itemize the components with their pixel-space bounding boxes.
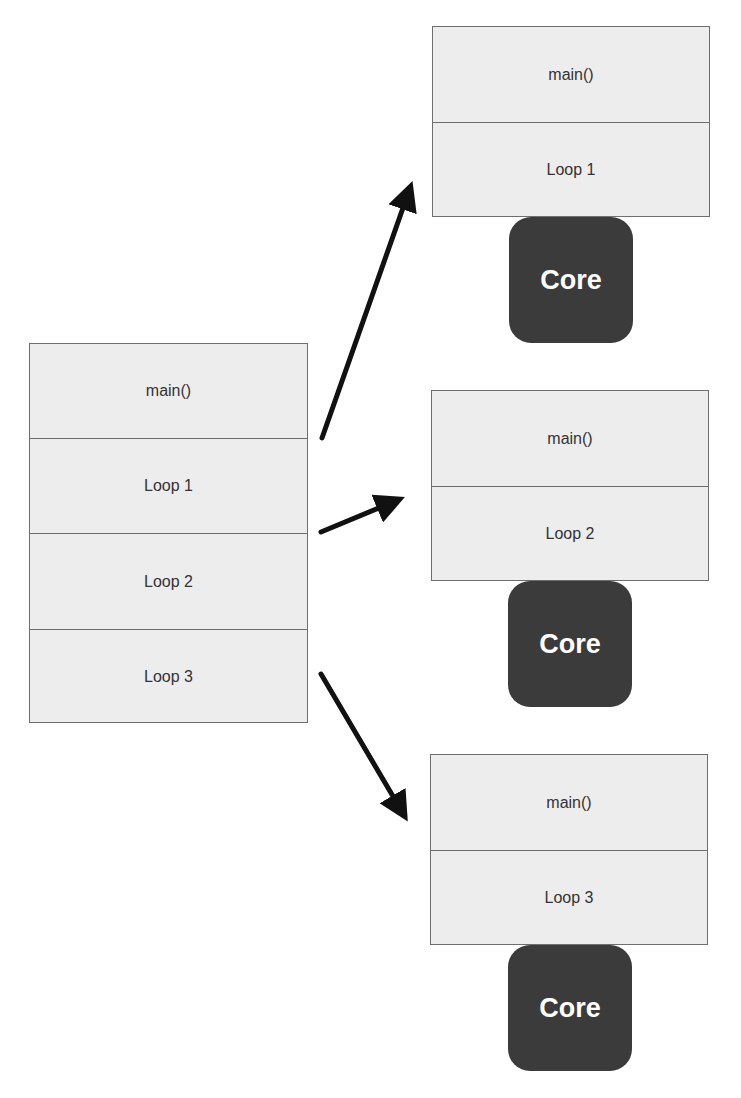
arrow-to-unit-1	[322, 188, 410, 438]
unit-3-stack: main() Loop 3	[430, 754, 708, 945]
unit-2-core: Core	[508, 581, 632, 707]
unit-2-section-loop: Loop 2	[432, 486, 708, 581]
unit-2-section-main: main()	[432, 391, 708, 486]
unit-1-core: Core	[509, 217, 633, 343]
unit-3-section-loop: Loop 3	[431, 850, 707, 945]
arrow-to-unit-3	[321, 674, 404, 815]
unit-1-stack: main() Loop 1	[432, 26, 710, 217]
unit-1-section-loop: Loop 1	[433, 122, 709, 217]
arrow-to-unit-2	[321, 500, 398, 532]
unit-3-section-main: main()	[431, 755, 707, 850]
unit-1-section-main: main()	[433, 27, 709, 122]
unit-2-stack: main() Loop 2	[431, 390, 709, 581]
unit-3-core: Core	[508, 945, 632, 1071]
